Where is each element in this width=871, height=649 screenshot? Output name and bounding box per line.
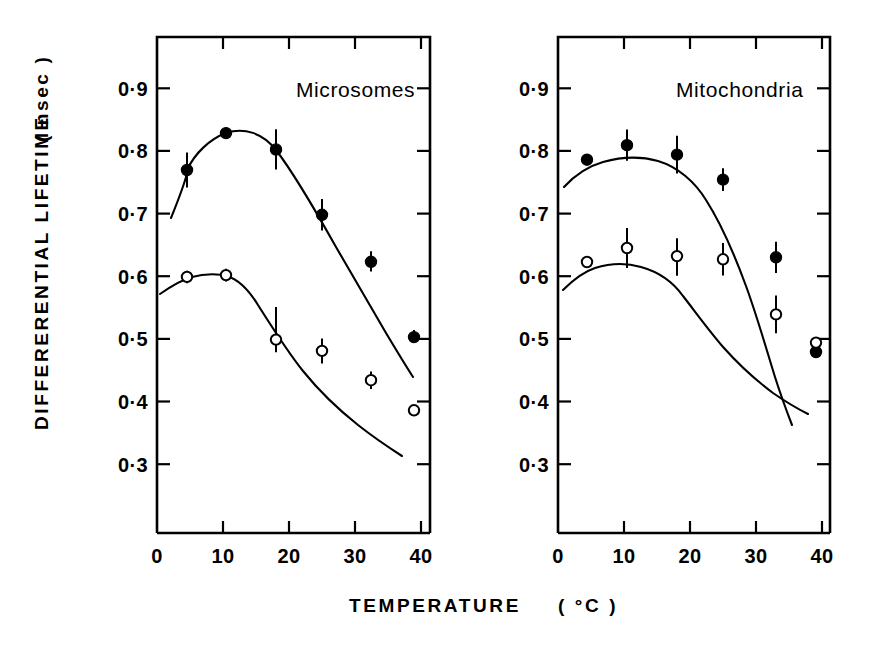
ytick-label-1: 0·8 [118,140,148,162]
xtick-label-r4: 40 [810,545,833,567]
ytick-label-r6: 0·3 [519,454,549,476]
xtick-label-r3: 30 [744,545,767,567]
panel-title-mitochondria: Mitochondria [676,78,803,101]
ytick-label-5: 0·4 [118,391,149,413]
ytick-label-2: 0·7 [118,203,148,225]
ytick-label-r1: 0·8 [519,140,549,162]
figure-root: 0·9 0·8 0·7 0·6 0·5 0·4 0·3 0 10 20 30 4… [0,0,871,649]
curve-mitochondria-open [563,264,808,414]
ytick-label-r3: 0·6 [519,266,549,288]
x-ticks-left-mirror [223,37,421,49]
xaxis-unit: ( °C ) [558,595,618,616]
xtick-label-1: 10 [211,545,234,567]
yaxis-title: DIFFERERENTIAL LIFETIME [31,115,52,430]
panel-frame-right [558,37,830,533]
ytick-label-4: 0·5 [118,328,148,350]
series-microsomes-open [182,269,419,416]
panel-mitochondria: 0·9 0·8 0·7 0·6 0·5 0·4 0·3 0 10 20 30 4… [519,37,834,567]
series-microsomes-filled [181,128,419,343]
ytick-label-r2: 0·7 [519,203,549,225]
ytick-label-r4: 0·5 [519,328,549,350]
ytick-label-r5: 0·4 [519,391,550,413]
xtick-label-r0: 0 [552,545,564,567]
panel-frame-left [157,37,430,533]
y-ticks-left [157,88,170,464]
xaxis-title: TEMPERATURE [349,595,521,616]
ytick-label-r0: 0·9 [519,78,549,100]
xtick-label-0: 0 [151,545,163,567]
ytick-label-0: 0·9 [118,78,148,100]
xtick-label-r1: 10 [612,545,635,567]
panel-title-microsomes: Microsomes [296,78,415,101]
x-ticks-right-mirror [624,37,822,49]
xtick-label-3: 30 [343,545,366,567]
xtick-label-2: 20 [277,545,300,567]
y-ticks-right-mirror [817,88,830,464]
chart-svg: 0·9 0·8 0·7 0·6 0·5 0·4 0·3 0 10 20 30 4… [0,0,871,649]
yaxis-unit: ( nsec ) [31,55,52,142]
series-mitochondria-filled [581,130,821,358]
curve-microsomes-open [160,274,402,456]
ytick-label-3: 0·6 [118,266,148,288]
x-ticks-left [223,521,421,533]
curve-microsomes-filled [171,131,413,377]
curve-mitochondria-filled [564,158,792,425]
ytick-label-6: 0·3 [118,454,148,476]
x-ticks-right [624,521,822,533]
xtick-label-4: 40 [409,545,432,567]
series-mitochondria-open [582,228,821,348]
xtick-label-r2: 20 [678,545,701,567]
panel-microsomes: 0·9 0·8 0·7 0·6 0·5 0·4 0·3 0 10 20 30 4… [118,37,433,567]
y-ticks-right [558,88,571,464]
